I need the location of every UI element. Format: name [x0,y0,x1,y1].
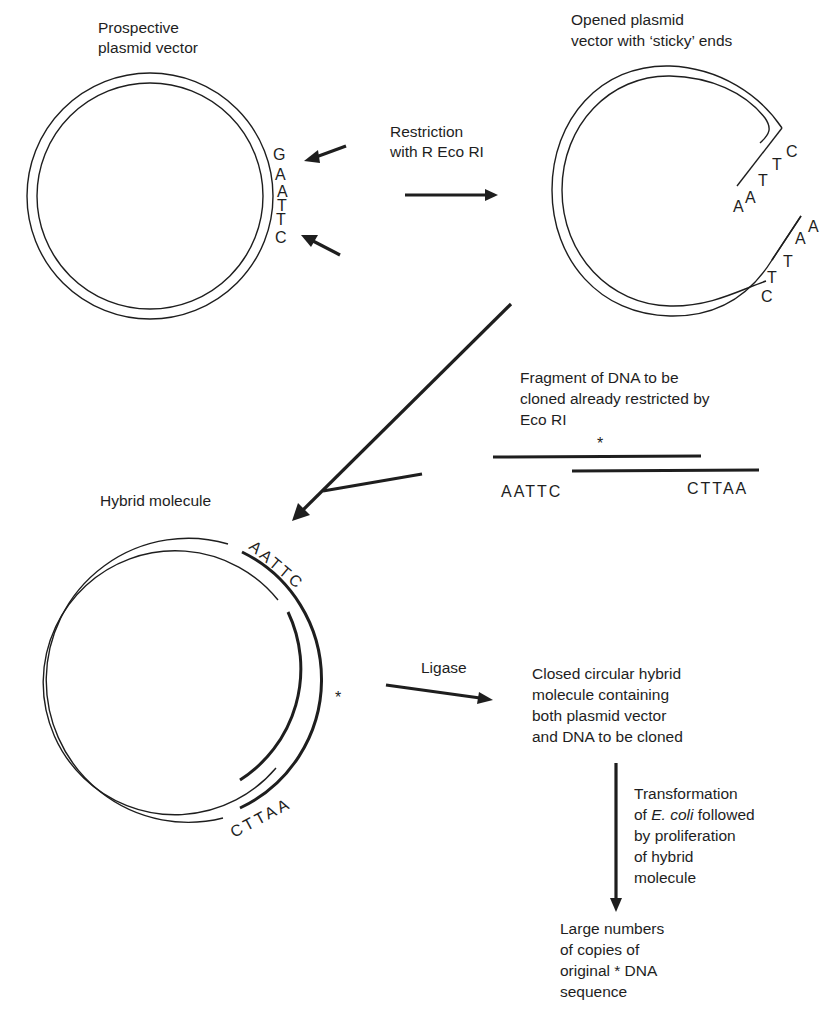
transformation-line: by proliferation [634,827,736,844]
fragment-label-line3: Eco RI [520,411,567,428]
fragment-left-end: AATTC [501,483,562,500]
result-line: original * DNA [560,962,658,979]
hybrid-bottom-bases: CTTAA [227,795,293,841]
cut-arrow-top-icon [304,146,346,163]
cut-arrow-bottom-icon [301,235,340,255]
prospective-plasmid: Prospective plasmid vector G A A T T C [27,19,346,319]
restriction-step: Restriction with R Eco RI [389,123,498,201]
transformation-line: molecule [634,869,696,886]
opened-label-line1: Opened plasmid [571,11,684,28]
fragment-right-end: CTTAA [687,480,748,497]
fragment-label-line1: Fragment of DNA to be [520,369,679,386]
restriction-label-line1: Restriction [390,123,463,140]
plasmid-label-line1: Prospective [98,19,179,36]
fragment-marker: * [597,435,603,452]
result-line: of copies of [560,941,640,958]
base-letter: A [795,230,806,247]
opened-plasmid: Opened plasmid vector with ‘sticky’ ends… [552,11,819,316]
fragment-label-line2: cloned already restricted by [520,390,710,407]
hybrid-label: Hybrid molecule [100,492,211,509]
plasmid-label-line2: plasmid vector [98,39,198,56]
ligase-step: Ligase [386,659,493,704]
hybrid-inner-insert-strand [240,612,301,780]
hybrid-outer-vector-strand [46,538,228,822]
opened-outer-strand [552,66,801,316]
base-letter: T [758,172,768,189]
result-line: sequence [560,983,627,1000]
hybrid-marker: * [335,689,341,706]
opened-inner-strand [562,76,769,306]
base-letter: A [745,189,756,206]
fragment-top-strand [493,456,701,457]
transformation-step: Transformation of E. coli followed by pr… [610,763,755,912]
base-letter: A [808,218,819,235]
transformation-line: Transformation [634,785,738,802]
site-base: A [275,166,286,183]
base-letter: C [786,143,798,160]
ligase-label: Ligase [421,659,467,676]
site-base: T [276,211,286,228]
closed-hybrid-description: Closed circular hybrid molecule containi… [532,665,683,745]
transformation-line: of hybrid [634,848,693,865]
vector-to-hybrid-arrow-icon [302,304,511,511]
transformation-line: of E. coli followed [634,806,755,823]
plasmid-inner-strand [37,83,263,309]
transformation-arrowhead-icon [610,898,622,912]
base-letter: T [772,156,782,173]
site-base: C [275,229,287,246]
site-base: G [273,146,285,163]
restriction-label-line2: with R Eco RI [389,143,484,160]
base-letter: T [783,253,793,270]
ecori-site: G A A T T C [273,146,288,246]
merge-arrow [292,304,511,521]
base-letter: A [733,198,744,215]
closed-line: Closed circular hybrid [532,665,681,682]
ligase-arrow-icon [386,685,480,698]
opened-label-line2: vector with ‘sticky’ ends [571,32,733,49]
lower-end-bases: C T T A A [761,218,819,305]
fragment-bottom-strand [572,470,759,471]
result-description: Large numbers of copies of original * DN… [560,920,665,1000]
cloning-diagram: Prospective plasmid vector G A A T T C R… [0,0,825,1027]
base-letter: T [767,269,777,286]
closed-line: and DNA to be cloned [532,728,683,745]
hybrid-molecule: Hybrid molecule AATTC CTTAA * [43,492,341,841]
result-line: Large numbers [560,920,665,937]
hybrid-top-bases: AATTC [246,537,308,593]
closed-line: molecule containing [532,686,669,703]
closed-line: both plasmid vector [532,707,666,724]
base-letter: C [761,288,773,305]
dna-fragment: Fragment of DNA to be cloned already res… [493,369,759,500]
ligase-arrowhead-icon [477,692,493,704]
restriction-arrowhead-icon [485,189,498,201]
plasmid-outer-strand [27,73,273,319]
